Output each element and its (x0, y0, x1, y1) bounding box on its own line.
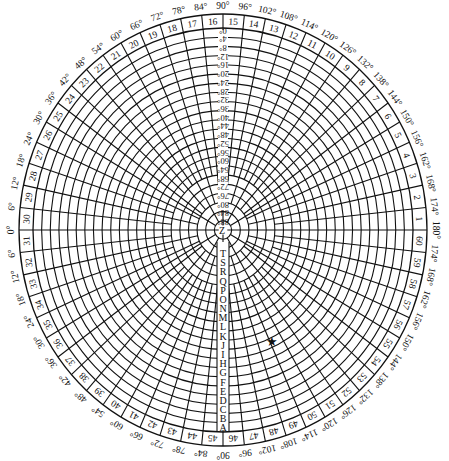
radial-line (46, 122, 215, 225)
degree-label: 60° (108, 28, 125, 43)
latitude-label: 20° (217, 69, 229, 79)
latitude-scale: 0°4°8°12°16°20°24°28°32°36°40°44°48°52°5… (217, 26, 229, 228)
sector-number: 13 (268, 23, 280, 35)
radial-line (29, 247, 174, 297)
sector-number: 32 (23, 257, 34, 268)
sector-number: 43 (166, 425, 178, 437)
sector-number: 5 (393, 131, 404, 140)
sector-number: 17 (187, 18, 198, 29)
degree-label: 30° (31, 334, 46, 351)
radial-line (71, 267, 184, 375)
sector-number: 42 (146, 418, 159, 431)
degree-label: 138° (371, 70, 391, 90)
degree-label: 132° (355, 53, 375, 73)
sector-number: 28 (27, 170, 39, 182)
degree-label: 126° (338, 39, 359, 58)
degree-label: 90° (216, 1, 230, 11)
degree-label: 132° (355, 387, 375, 407)
latitude-label: 76° (217, 191, 229, 201)
latitude-label: 64° (217, 165, 229, 175)
degree-label: 90° (216, 450, 230, 460)
sector-number: 18 (166, 22, 178, 34)
sector-number: 47 (248, 430, 259, 441)
sector-number: 58 (407, 278, 419, 290)
latitude-label: 0° (219, 26, 227, 36)
radial-line (46, 235, 215, 338)
degree-label: 84° (193, 448, 207, 459)
degree-label: 24° (22, 313, 37, 329)
sector-number: 59 (411, 257, 422, 268)
radial-line (29, 163, 174, 213)
ring-letter: T (220, 248, 226, 259)
latitude-label: 24° (217, 78, 229, 88)
degree-label: 12° (9, 269, 22, 284)
latitude-label: 36° (217, 104, 229, 114)
radial-line (230, 122, 399, 225)
degree-label: 168° (424, 267, 438, 287)
degree-label: 162° (418, 150, 433, 170)
center-letter: Z (219, 225, 225, 236)
polar-grid: 1234567891011121314151617181920212223242… (0, 0, 449, 461)
sector-number: 16 (208, 17, 218, 27)
sector-number: 29 (23, 192, 34, 203)
radial-line (262, 85, 375, 193)
radial-line (262, 267, 375, 375)
sector-number: 7 (370, 94, 381, 104)
radial-line (230, 235, 399, 338)
latitude-label: 60° (217, 156, 229, 166)
degree-label: 180° (431, 221, 441, 239)
degree-label: 144° (386, 88, 405, 109)
degree-label: 60° (108, 417, 125, 432)
degree-label: 6° (6, 202, 17, 212)
degree-label: 174° (428, 244, 440, 263)
degree-label: 72° (149, 10, 165, 24)
sector-number: 9 (342, 63, 352, 74)
degree-label: 126° (338, 402, 359, 421)
degree-label: 174° (428, 197, 440, 216)
radial-line (20, 236, 171, 253)
degree-label: 18° (14, 153, 28, 169)
sector-number: 34 (33, 298, 46, 311)
sector-number: 57 (400, 298, 413, 311)
latitude-label: 8° (219, 43, 227, 53)
radial-line (275, 207, 426, 224)
degree-label: 144° (385, 352, 404, 373)
latitude-label: 68° (217, 174, 229, 184)
degree-label: 102° (257, 443, 277, 457)
latitude-label: 80° (217, 200, 229, 210)
star-marker-icon[interactable]: ★ (266, 334, 278, 349)
latitude-label: 52° (217, 139, 229, 149)
degree-label: 24° (22, 130, 37, 146)
sector-number: 3 (407, 172, 418, 179)
radial-line (272, 163, 417, 213)
sector-number: 6 (382, 112, 393, 122)
degree-label: 96° (238, 448, 252, 459)
latitude-label: 84° (217, 208, 229, 218)
degree-label: 30° (31, 109, 46, 126)
degree-label: 162° (417, 289, 432, 309)
degree-label: 0° (6, 226, 16, 235)
sector-number: 46 (228, 433, 238, 443)
latitude-label: 44° (217, 121, 229, 131)
ring-letters: ABCDEFGHIJKLMNOPQRST (219, 248, 228, 433)
latitude-label: 56° (217, 148, 229, 158)
sector-number: 1 (414, 216, 424, 222)
sector-number: 27 (33, 149, 46, 162)
latitude-label: 40° (217, 113, 229, 123)
sector-number: 15 (228, 17, 238, 27)
sector-number: 12 (287, 29, 300, 42)
degree-label: 6° (6, 248, 17, 258)
sector-number: 48 (268, 425, 280, 437)
radial-line (272, 247, 417, 297)
degree-label: 96° (238, 1, 252, 12)
sector-number: 19 (146, 29, 159, 42)
latitude-label: 16° (217, 60, 229, 70)
sector-number: 8 (357, 77, 368, 88)
sector-number: 2 (412, 194, 423, 201)
latitude-label: 48° (217, 130, 229, 140)
degree-label: 66° (128, 18, 144, 33)
latitude-label: 4° (219, 34, 227, 44)
latitude-label: 72° (217, 182, 229, 192)
sector-number: 33 (27, 278, 39, 290)
radial-line (227, 238, 325, 417)
